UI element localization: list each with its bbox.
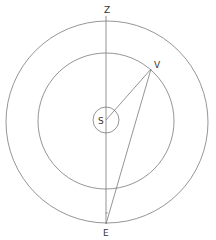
label-v: V xyxy=(154,60,161,70)
segment-v-e xyxy=(106,69,151,224)
line-segments xyxy=(106,16,151,224)
label-z: Z xyxy=(104,5,110,15)
orbit-circles xyxy=(6,21,208,223)
label-s: S xyxy=(98,116,104,126)
label-e: E xyxy=(103,228,109,238)
outer-orbit xyxy=(6,21,208,223)
segment-s-v xyxy=(106,69,151,120)
orbit-diagram: Z V S E xyxy=(0,0,216,240)
